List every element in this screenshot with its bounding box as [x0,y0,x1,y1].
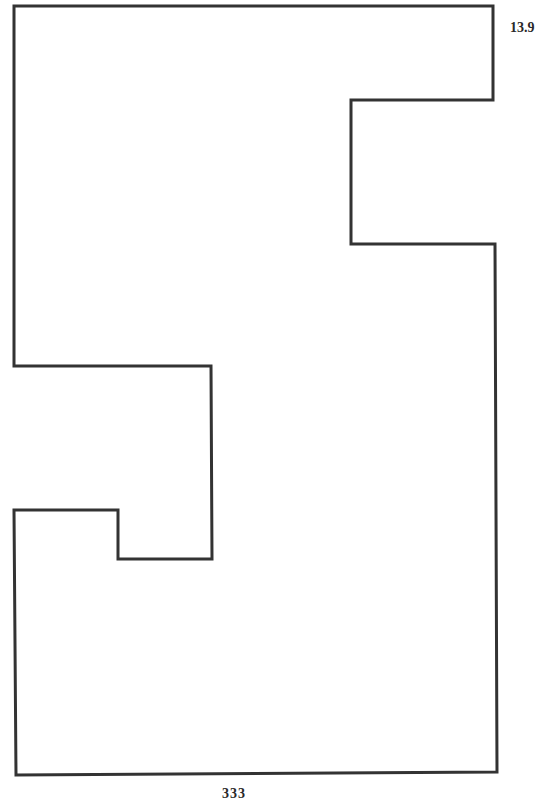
figure-label: 13.9 [510,20,535,36]
page-number: 333 [222,786,246,802]
outline-shape [14,6,497,775]
